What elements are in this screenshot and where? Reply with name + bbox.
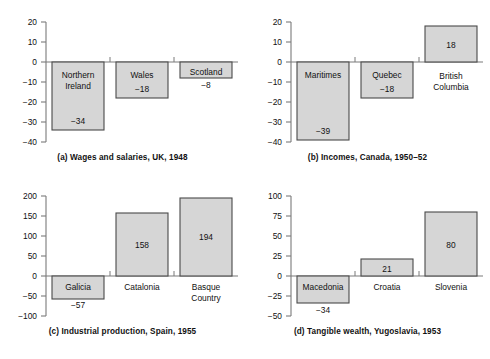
panel-a-ytick-label: −40 xyxy=(23,137,38,147)
panel-d-bar-value-slovenia: 80 xyxy=(446,240,456,250)
panel-a-bar-value-wales: −18 xyxy=(135,84,150,94)
four-panel-bar-chart-figure: 20 10 0 −10 −20 −30 −40 Northern Ireland xyxy=(0,0,490,359)
panel-a-bar-label-scotland: Scotland xyxy=(190,67,223,77)
panel-c-ytick-label: 0 xyxy=(32,271,37,281)
panel-c-caption: (c) Industrial production, Spain, 1955 xyxy=(0,327,245,336)
panel-c-bar-label-catalonia: Catalonia xyxy=(124,282,160,292)
panel-a-bar-label-wales: Wales xyxy=(131,70,154,80)
panel-d-bar-label-croatia: Croatia xyxy=(374,282,401,292)
panel-b-plot: 20 10 0 −10 −20 −30 −40 Maritimes Quebec… xyxy=(245,0,490,158)
panel-d-plot: 100 75 50 25 0 −25 −50 Macedonia Croatia… xyxy=(245,180,490,338)
panel-d-bar-label-macedonia: Macedonia xyxy=(303,282,344,292)
panel-a-caption: (a) Wages and salaries, UK, 1948 xyxy=(0,153,245,162)
panel-a-ytick-label: 10 xyxy=(28,37,38,47)
panel-b-ytick-label: −40 xyxy=(268,137,283,147)
panel-b-ytick-label: 10 xyxy=(273,37,283,47)
panel-d-ytick-label: 0 xyxy=(277,271,282,281)
panel-b-ytick-label: 0 xyxy=(277,57,282,67)
panel-a-bar-value-scotland: −8 xyxy=(201,80,211,90)
panel-a-ytick-label: −20 xyxy=(23,97,38,107)
panel-b: 20 10 0 −10 −20 −30 −40 Maritimes Quebec… xyxy=(245,0,490,179)
panel-c-bar-label-basque-country-line1: Basque xyxy=(192,282,221,292)
panel-b-bar-label-quebec: Quebec xyxy=(372,70,401,80)
panel-c-ytick-label: −100 xyxy=(18,311,37,321)
panel-c-ytick-label: 100 xyxy=(23,231,37,241)
panel-c-ytick-label: 50 xyxy=(28,251,38,261)
panel-b-bar-label-british-columbia-line2: Columbia xyxy=(433,82,469,92)
panel-d: 100 75 50 25 0 −25 −50 Macedonia Croatia… xyxy=(245,180,490,359)
panel-b-ytick-label: −10 xyxy=(268,77,283,87)
panel-a-plot: 20 10 0 −10 −20 −30 −40 Northern Ireland xyxy=(0,0,245,158)
panel-d-ytick-label: 100 xyxy=(268,191,282,201)
panel-d-bar-value-croatia: 21 xyxy=(382,264,392,274)
panel-d-bar-label-slovenia: Slovenia xyxy=(435,282,467,292)
panel-a-ytick-label: −30 xyxy=(23,117,38,127)
panel-c-bar-value-catalonia: 158 xyxy=(135,240,149,250)
panel-d-ytick-label: 25 xyxy=(273,251,283,261)
panel-a-ytick-label: 0 xyxy=(32,57,37,67)
panel-a-bar-label-northern-ireland-line1: Northern xyxy=(62,70,95,80)
panel-c-bar-label-basque-country-line2: Country xyxy=(191,293,221,303)
panel-d-ytick-label: −25 xyxy=(268,291,283,301)
panel-a-ytick-label: 20 xyxy=(28,17,38,27)
panel-c-ytick-label: 150 xyxy=(23,211,37,221)
panel-c-bar-value-basque-country: 194 xyxy=(199,232,213,242)
panel-d-ytick-label: 50 xyxy=(273,231,283,241)
panel-b-ytick-label: 20 xyxy=(273,17,283,27)
panel-d-ytick-label: 75 xyxy=(273,211,283,221)
panel-d-ytick-label: −50 xyxy=(268,311,283,321)
panel-a-bar-value-northern-ireland: −34 xyxy=(71,116,86,126)
panel-d-caption: (d) Tangible wealth, Yugoslavia, 1953 xyxy=(245,327,490,336)
panel-b-bar-value-quebec: −18 xyxy=(380,84,395,94)
panel-b-bar-value-maritimes: −39 xyxy=(316,126,331,136)
panel-a-ytick-label: −10 xyxy=(23,77,38,87)
panel-b-ytick-label: −20 xyxy=(268,97,283,107)
panel-c-plot: 200 150 100 50 0 −50 −100 Galicia Catalo… xyxy=(0,180,245,338)
panel-b-bar-label-british-columbia-line1: British xyxy=(439,71,463,81)
panel-d-bar-value-macedonia: −34 xyxy=(316,305,331,315)
panel-a-bar-label-northern-ireland-line2: Ireland xyxy=(65,81,91,91)
panel-a: 20 10 0 −10 −20 −30 −40 Northern Ireland xyxy=(0,0,245,179)
panel-b-caption: (b) Incomes, Canada, 1950–52 xyxy=(245,153,490,162)
panel-c: 200 150 100 50 0 −50 −100 Galicia Catalo… xyxy=(0,180,245,359)
panel-c-ytick-label: 200 xyxy=(23,191,37,201)
panel-c-ytick-label: −50 xyxy=(23,291,38,301)
panel-b-bar-label-maritimes: Maritimes xyxy=(305,70,341,80)
panel-c-bar-label-galicia: Galicia xyxy=(65,282,91,292)
panel-b-bar-value-british-columbia: 18 xyxy=(446,40,456,50)
panel-c-bar-value-galicia: −57 xyxy=(71,300,86,310)
panel-b-ytick-label: −30 xyxy=(268,117,283,127)
